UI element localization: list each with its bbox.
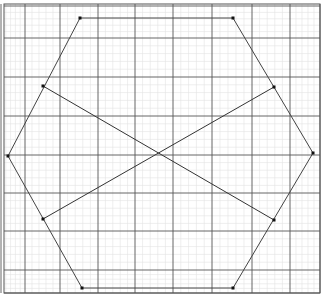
vertex-point xyxy=(81,287,84,290)
vertex-point xyxy=(273,86,276,89)
vertex-point xyxy=(42,85,45,88)
vertex-point xyxy=(232,17,235,20)
hexagon-diagram xyxy=(0,0,324,297)
vertex-point xyxy=(232,287,235,290)
vertex-point xyxy=(42,218,45,221)
vertex-point xyxy=(7,155,10,158)
vertex-point xyxy=(79,17,82,20)
diagonal-line xyxy=(43,87,274,219)
minor-grid xyxy=(4,4,320,293)
vertex-point xyxy=(312,152,315,155)
major-grid xyxy=(1,4,320,293)
vertex-point xyxy=(273,219,276,222)
grid-border xyxy=(4,4,320,293)
diagonal-segments xyxy=(43,86,274,220)
